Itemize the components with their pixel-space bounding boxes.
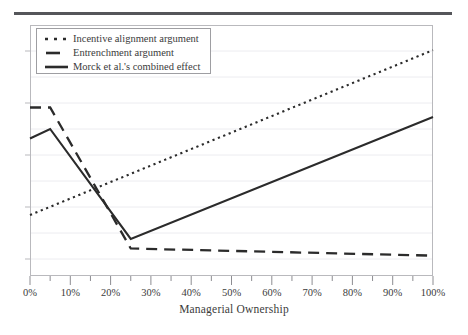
series-morck-combined-line [30,117,433,239]
dotted-line-swatch-icon [43,33,69,45]
legend-entry-incentive-alignment: Incentive alignment argument [37,31,210,46]
legend-label-incentive-alignment: Incentive alignment argument [73,33,199,45]
figure: Incentive alignment argument Entrenchmen… [0,0,468,335]
x-tick-label: 10% [61,287,80,298]
solid-line-swatch-icon [43,61,69,73]
series-incentive-alignment-line [30,50,433,215]
series-lines [30,50,433,256]
x-axis-title: Managerial Ownership [0,303,468,315]
x-tick-label: 100% [421,287,446,298]
legend-label-morck-combined: Morck et al.'s combined effect [73,61,200,73]
gridlines [31,51,432,259]
chart-legend: Incentive alignment argument Entrenchmen… [36,28,211,74]
x-tick-label: 70% [302,287,321,298]
legend-entry-morck-combined: Morck et al.'s combined effect [37,59,210,74]
dashed-line-swatch-icon [43,47,69,59]
x-tick-label: 30% [141,287,160,298]
legend-label-entrenchment: Entrenchment argument [73,47,174,59]
legend-entry-entrenchment: Entrenchment argument [37,45,210,60]
x-tick-label: 50% [222,287,241,298]
x-tick-label: 60% [262,287,281,298]
x-tick-label: 80% [343,287,362,298]
y-axis-ticks [25,51,30,259]
x-tick-label: 40% [182,287,201,298]
x-tick-label: 90% [383,287,402,298]
x-axis-ticks [30,276,433,285]
x-tick-label: 0% [23,287,37,298]
x-tick-label: 20% [101,287,120,298]
